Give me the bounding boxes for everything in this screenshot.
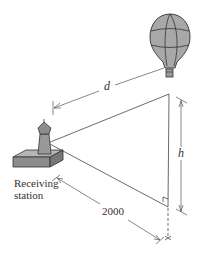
label-receiving-station: Receiving station [14,177,59,201]
station-label-line1: Receiving [14,177,59,189]
right-triangle [48,94,169,207]
label-d: d [104,79,110,94]
receiving-station [13,119,63,167]
vertical-drop-dashed [165,208,171,240]
diagram-canvas [0,0,201,260]
station-label-line2: station [14,189,59,201]
label-h: h [178,146,184,161]
right-angle-marker [163,197,168,202]
hot-air-balloon [150,14,190,77]
label-2000: 2000 [102,205,124,217]
